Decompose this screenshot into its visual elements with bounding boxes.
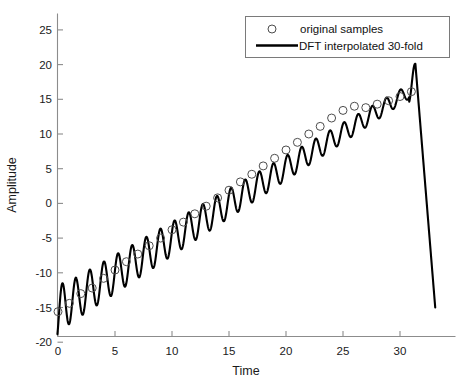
x-tick-label: 15 — [223, 345, 236, 357]
dft-interpolated-line — [57, 64, 435, 334]
sample-marker — [259, 162, 267, 170]
x-tickmarks — [58, 331, 400, 337]
y-tick-label: 0 — [46, 197, 52, 209]
sample-marker — [373, 100, 381, 108]
legend-item-label: DFT interpolated 30-fold — [299, 40, 423, 52]
x-tick-label: 25 — [337, 345, 350, 357]
chart-figure: 25 20 15 10 5 0 -5 -10 -15 -20 0 5 10 15… — [0, 0, 462, 381]
x-tick-label: 20 — [280, 345, 293, 357]
sample-marker — [282, 146, 290, 154]
sample-marker — [350, 102, 358, 110]
x-tick-label: 0 — [55, 345, 61, 357]
x-tick-label: 10 — [166, 345, 179, 357]
y-tick-label: -15 — [35, 302, 52, 314]
sample-marker — [316, 122, 324, 130]
x-axis-title: Time — [232, 364, 259, 378]
data-series-group — [54, 64, 435, 334]
sample-marker — [362, 104, 370, 112]
legend: original samples DFT interpolated 30-fol… — [246, 17, 450, 58]
y-tick-label: 15 — [39, 93, 52, 105]
y-tick-labels: 25 20 15 10 5 0 -5 -10 -15 -20 — [35, 24, 52, 348]
y-tick-label: 10 — [39, 128, 52, 140]
sample-marker — [339, 106, 347, 114]
sample-marker — [191, 210, 199, 218]
sample-marker — [248, 170, 256, 178]
sample-marker — [293, 138, 301, 146]
y-tick-label: 5 — [46, 163, 52, 175]
sample-marker — [305, 130, 313, 138]
x-tick-label: 5 — [112, 345, 118, 357]
plot-canvas: 25 20 15 10 5 0 -5 -10 -15 -20 0 5 10 15… — [0, 0, 462, 381]
y-tick-label: 25 — [39, 24, 52, 36]
y-tick-label: -5 — [42, 232, 52, 244]
x-tick-labels: 0 5 10 15 20 25 30 — [55, 345, 407, 357]
y-tick-label: -10 — [35, 267, 52, 279]
sample-marker — [328, 114, 336, 122]
axes-spines — [58, 14, 456, 337]
y-tick-label: -20 — [35, 336, 52, 348]
y-axis-title: Amplitude — [5, 157, 19, 213]
sample-marker — [271, 154, 279, 162]
legend-item-label: original samples — [300, 23, 383, 35]
y-tick-label: 20 — [39, 59, 52, 71]
x-tick-label: 30 — [394, 345, 407, 357]
